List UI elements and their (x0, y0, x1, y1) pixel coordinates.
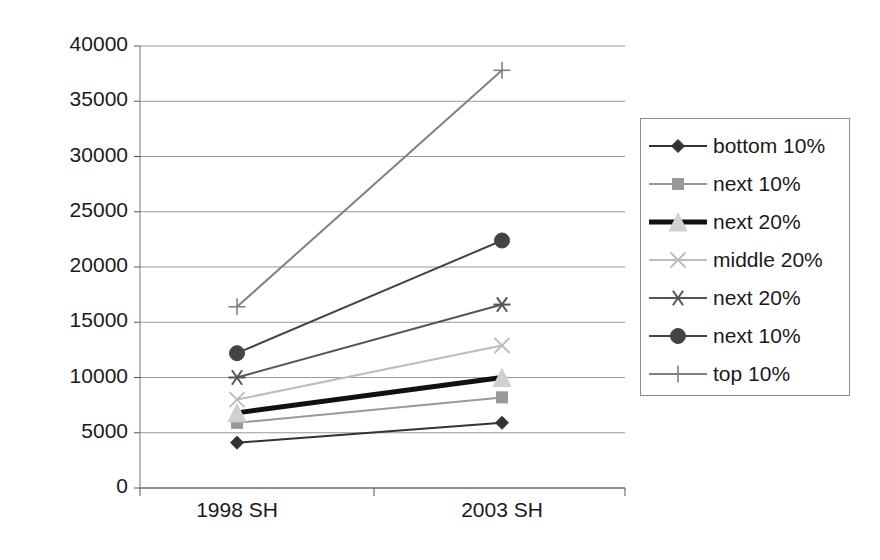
legend-point-0-diamond-marker (672, 140, 685, 153)
chart-container: 4000035000300002500020000150001000050000… (0, 0, 880, 560)
chart-legend: bottom 10%next 10%next 20%middle 20%next… (640, 118, 850, 396)
legend-item-1[interactable]: next 10% (641, 165, 849, 203)
legend-marker-icon (647, 324, 709, 348)
legend-marker-icon (647, 134, 709, 158)
axis-lines (134, 46, 625, 496)
legend-point-1-square-marker (673, 179, 684, 190)
legend-point-4 (670, 291, 687, 305)
legend-item-0[interactable]: bottom 10% (641, 127, 849, 165)
legend-swatch-diamond-icon (647, 134, 709, 158)
series-0-point-0 (231, 436, 244, 449)
series-0-point-1-diamond-marker (496, 416, 509, 429)
legend-swatch-triangle-icon (647, 210, 709, 234)
series-3-point-1 (495, 338, 510, 353)
legend-marker-icon (647, 172, 709, 196)
legend-item-4[interactable]: next 20% (641, 279, 849, 317)
legend-label-4: next 20% (709, 286, 801, 310)
series-1-point-1-square-marker (497, 392, 508, 403)
legend-item-6[interactable]: top 10% (641, 355, 849, 393)
series-5-point-1 (495, 233, 510, 248)
legend-swatch-plus-icon (647, 362, 709, 386)
series-5-point-0-circle-marker (230, 346, 245, 361)
legend-swatch-asterisk-icon (647, 286, 709, 310)
legend-marker-icon (647, 362, 709, 386)
legend-point-0 (672, 140, 685, 153)
legend-swatch-cross-x-icon (647, 248, 709, 272)
legend-label-0: bottom 10% (709, 134, 825, 158)
series-4-point-0 (229, 370, 246, 384)
legend-marker-icon (647, 248, 709, 272)
series-0-point-1 (496, 416, 509, 429)
legend-point-5 (671, 329, 686, 344)
legend-marker-icon (647, 286, 709, 310)
legend-marker-icon (647, 210, 709, 234)
series-line-3 (237, 345, 502, 399)
legend-point-6 (670, 366, 687, 383)
gridlines (140, 46, 625, 488)
series-line-5 (237, 240, 502, 353)
legend-swatch-square-icon (647, 172, 709, 196)
series-line-2 (237, 378, 502, 413)
series-6 (229, 62, 511, 315)
legend-item-2[interactable]: next 20% (641, 203, 849, 241)
legend-item-3[interactable]: middle 20% (641, 241, 849, 279)
series-2 (228, 369, 511, 422)
series-5-point-1-circle-marker (495, 233, 510, 248)
legend-swatch-circle-icon (647, 324, 709, 348)
series-line-4 (237, 305, 502, 378)
series-line-1 (237, 397, 502, 422)
legend-label-2: next 20% (709, 210, 801, 234)
legend-label-1: next 10% (709, 172, 801, 196)
series-1-point-1 (497, 392, 508, 403)
legend-label-5: next 10% (709, 324, 801, 348)
series-group (228, 62, 511, 449)
series-0-point-0-diamond-marker (231, 436, 244, 449)
legend-label-6: top 10% (709, 362, 790, 386)
legend-item-5[interactable]: next 10% (641, 317, 849, 355)
legend-point-5-circle-marker (671, 329, 686, 344)
series-4-point-1 (494, 297, 511, 311)
series-5-point-0 (230, 346, 245, 361)
series-line-6 (237, 70, 502, 306)
legend-label-3: middle 20% (709, 248, 823, 272)
legend-point-1 (673, 179, 684, 190)
